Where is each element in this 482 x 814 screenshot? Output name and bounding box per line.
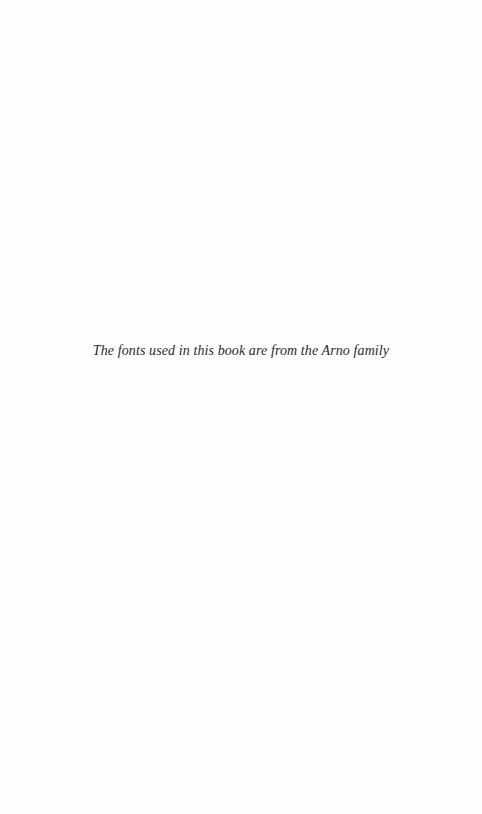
colophon-text: The fonts used in this book are from the… — [0, 343, 482, 359]
book-page: The fonts used in this book are from the… — [0, 0, 482, 814]
